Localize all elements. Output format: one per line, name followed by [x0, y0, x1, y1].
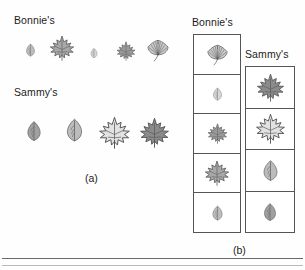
- maple-leaf: [116, 40, 136, 62]
- leaf-cell: [194, 193, 240, 232]
- panel-a-sammys-label: Sammy's: [14, 86, 58, 98]
- leaf-cell: [246, 67, 294, 109]
- oval-leaf: [63, 111, 86, 149]
- panel-b-bonnies-label: Bonnie's: [192, 16, 233, 28]
- oval-leaf: [211, 82, 224, 106]
- oval-leaf: [260, 153, 281, 188]
- leaf-slot: [94, 116, 134, 149]
- maple-leaf: [207, 122, 228, 145]
- maple-leaf: [98, 116, 131, 149]
- leaf-cell: [194, 154, 240, 194]
- oval-leaf: [261, 196, 279, 228]
- leaf-cell: [194, 75, 240, 115]
- leaf-slot: [78, 44, 110, 62]
- leaf-slot: [14, 113, 54, 149]
- oval-leaf: [24, 38, 37, 62]
- panel-b-sammys-column: [245, 66, 295, 233]
- leaf-slot: [134, 116, 174, 149]
- leaf-cell: [194, 35, 240, 75]
- panel-a-caption: (a): [85, 172, 98, 184]
- panel-a-sammys-leaf-row: [14, 107, 174, 149]
- maple-leaf: [49, 34, 75, 62]
- oval-leaf: [24, 113, 44, 149]
- maple-leaf: [139, 116, 170, 149]
- oval-leaf: [210, 199, 225, 227]
- maple-leaf: [256, 72, 285, 103]
- panel-a-bonnies-leaf-row: [14, 30, 174, 62]
- panel-b-sammys-label: Sammy's: [245, 48, 289, 60]
- maple-leaf: [255, 113, 286, 144]
- ginkgo-leaf: [206, 43, 229, 66]
- leaf-slot: [54, 111, 94, 149]
- oval-leaf: [89, 44, 99, 62]
- leaf-slot: [46, 34, 78, 62]
- leaf-cell: [246, 109, 294, 151]
- bottom-rule-secondary: [2, 265, 303, 266]
- leaf-slot: [14, 38, 46, 62]
- bottom-rule: [2, 258, 303, 259]
- leaf-comparison-figure: Bonnie's Sammy's (a) Bonnie's Sammy's (b…: [0, 0, 305, 270]
- panel-b-bonnies-column: [193, 34, 241, 233]
- maple-leaf: [204, 159, 230, 187]
- leaf-cell: [246, 192, 294, 233]
- leaf-cell: [246, 150, 294, 192]
- leaf-slot: [110, 40, 142, 62]
- leaf-cell: [194, 114, 240, 154]
- panel-a-bonnies-label: Bonnie's: [14, 14, 55, 26]
- panel-b-caption: (b): [233, 244, 246, 256]
- leaf-slot: [142, 38, 174, 62]
- ginkgo-leaf: [146, 38, 170, 62]
